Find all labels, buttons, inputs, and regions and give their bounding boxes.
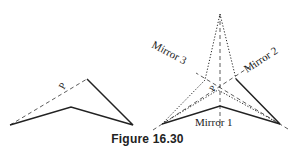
right-panel: P Mirror 3 Mirror 2 Mirror 1 [150, 14, 288, 130]
left-dashed-line [10, 79, 87, 125]
left-point-label: P [56, 80, 69, 91]
mirror-2-label: Mirror 2 [242, 44, 280, 75]
figure-canvas: P P Mirror 3 Mirror 2 Mirror 1 [0, 0, 295, 152]
mirror-1-label: Mirror 1 [195, 116, 233, 128]
figure-caption: Figure 16.30 [0, 132, 295, 146]
left-solid-shape [10, 79, 133, 125]
right-point-label: P [207, 84, 218, 93]
left-panel: P [10, 79, 133, 125]
mirror-3-label: Mirror 3 [150, 38, 189, 66]
